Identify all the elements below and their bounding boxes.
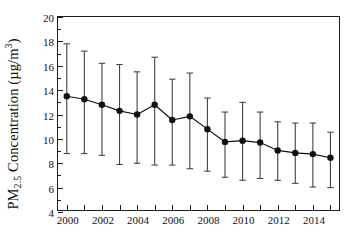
x-axis-tick (260, 205, 261, 210)
y-axis-tick: 18 (58, 41, 63, 42)
plot-area: 468101214161820 200020022004200620082010… (57, 16, 340, 211)
y-axis-tick-label: 14 (43, 86, 54, 97)
x-axis-tick (225, 205, 226, 210)
x-axis-tick (330, 205, 331, 210)
x-axis-tick (190, 205, 191, 210)
y-axis-minor-tick (58, 175, 61, 176)
x-axis-tick-label: 2002 (92, 215, 114, 226)
y-axis-minor-tick (58, 102, 61, 103)
y-axis-minor-tick (58, 127, 61, 128)
y-axis-title-middle: Concentration (µg/m (5, 48, 21, 175)
error-bars-group (64, 44, 334, 188)
x-axis-tick (120, 205, 121, 210)
x-axis-tick: 2004 (137, 205, 138, 210)
x-axis-tick-label: 2012 (268, 215, 290, 226)
x-axis-tick-label: 2008 (197, 215, 219, 226)
y-axis-tick-label: 6 (49, 183, 55, 194)
pm25-trend-chart: PM2.5 Concentration (µg/m3) 468101214161… (0, 0, 356, 248)
x-axis-tick (84, 205, 85, 210)
y-axis-title-container: PM2.5 Concentration (µg/m3) (0, 0, 26, 248)
x-axis-tick: 2002 (102, 205, 103, 210)
x-axis-tick (295, 205, 296, 210)
x-axis-tick: 2014 (313, 205, 314, 210)
y-axis-tick-label: 20 (43, 13, 54, 24)
y-axis-tick: 10 (58, 139, 63, 140)
data-point-marker[interactable] (134, 111, 140, 117)
data-point-marker[interactable] (239, 138, 245, 144)
data-point-marker[interactable] (275, 147, 281, 153)
data-point-marker[interactable] (151, 102, 157, 108)
y-axis-minor-tick (58, 54, 61, 55)
y-axis-minor-tick (58, 78, 61, 79)
data-point-marker[interactable] (169, 117, 175, 123)
data-point-markers-group (64, 93, 334, 161)
y-axis-tick-label: 4 (49, 208, 55, 219)
x-axis-tick: 2012 (278, 205, 279, 210)
x-axis-tick-label: 2004 (127, 215, 149, 226)
y-axis-tick: 12 (58, 115, 63, 116)
data-point-marker[interactable] (257, 139, 263, 145)
x-axis-tick: 2000 (67, 205, 68, 210)
series-line (67, 96, 331, 158)
y-axis-tick-label: 16 (43, 61, 54, 72)
y-axis-tick: 14 (58, 90, 63, 91)
x-axis-tick-label: 2000 (57, 215, 79, 226)
y-axis-tick-label: 8 (49, 159, 55, 170)
y-axis-tick: 4 (58, 212, 63, 213)
data-point-marker[interactable] (204, 126, 210, 132)
y-axis-title-superscript: 3 (3, 43, 14, 48)
y-axis-tick-label: 10 (43, 134, 54, 145)
x-axis-tick: 2006 (172, 205, 173, 210)
data-point-marker[interactable] (292, 150, 298, 156)
y-axis-title: PM2.5 Concentration (µg/m3) (3, 38, 22, 209)
data-point-marker[interactable] (310, 151, 316, 157)
y-axis-minor-tick (58, 151, 61, 152)
x-axis-tick-label: 2006 (162, 215, 184, 226)
y-axis-title-prefix: PM (5, 188, 21, 209)
y-axis-tick-label: 12 (43, 110, 54, 121)
data-point-marker[interactable] (222, 139, 228, 145)
data-point-marker[interactable] (187, 113, 193, 119)
y-axis-tick: 16 (58, 66, 63, 67)
data-point-marker[interactable] (116, 108, 122, 114)
x-axis-tick: 2008 (207, 205, 208, 210)
y-axis-tick: 6 (58, 188, 63, 189)
data-series-layer (58, 17, 341, 212)
x-axis-tick-label: 2010 (233, 215, 255, 226)
x-axis-tick: 2010 (243, 205, 244, 210)
y-axis-tick: 8 (58, 163, 63, 164)
data-point-marker[interactable] (81, 96, 87, 102)
y-axis-title-suffix: ) (5, 38, 21, 43)
x-axis-tick (155, 205, 156, 210)
data-point-marker[interactable] (99, 102, 105, 108)
y-axis-tick-label: 18 (43, 37, 54, 48)
x-axis-tick-label: 2014 (303, 215, 325, 226)
y-axis-title-subscript: 2.5 (12, 176, 23, 189)
y-axis-minor-tick (58, 29, 61, 30)
data-point-marker[interactable] (327, 155, 333, 161)
data-point-marker[interactable] (64, 93, 70, 99)
y-axis-tick: 20 (58, 17, 63, 18)
y-axis-minor-tick (58, 200, 61, 201)
